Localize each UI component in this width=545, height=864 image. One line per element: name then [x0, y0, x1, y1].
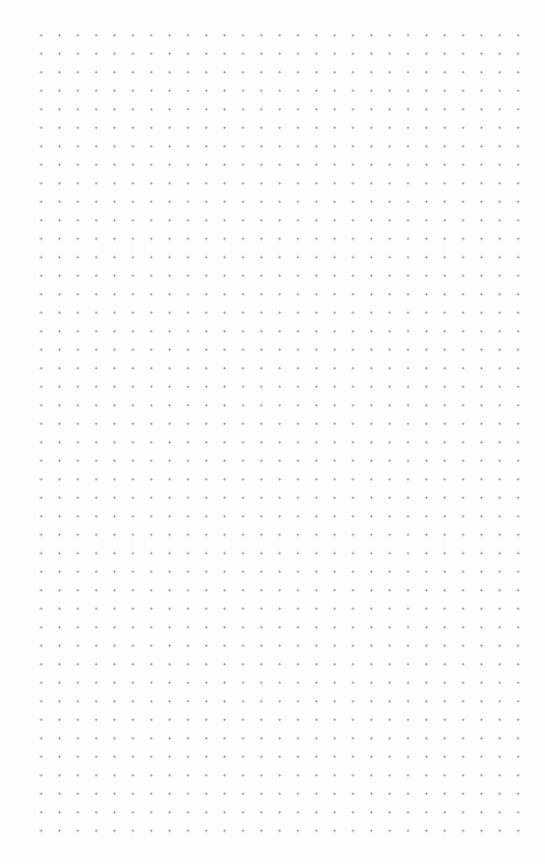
dot-grid-background: [32, 26, 527, 840]
drawing-canvas[interactable]: [0, 0, 545, 864]
